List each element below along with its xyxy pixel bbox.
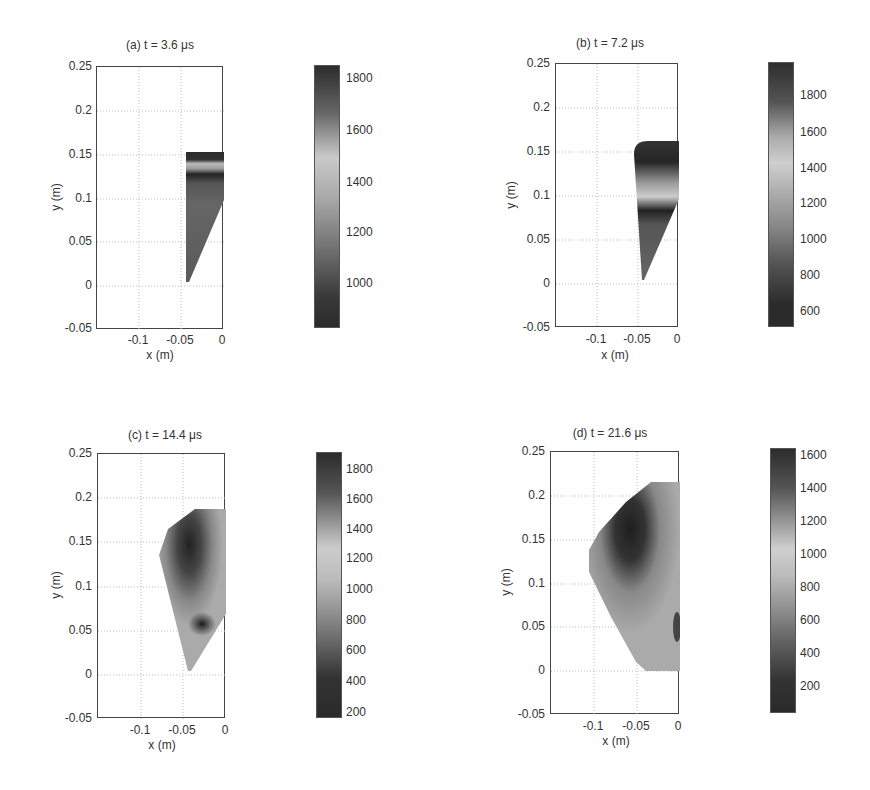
colorbar-tick: 1200 (346, 225, 373, 239)
colorbar-tick: 200 (800, 679, 820, 693)
ytick: 0 (52, 278, 92, 292)
colorbar-tick: 1000 (346, 582, 373, 596)
ytick: -0.05 (52, 711, 92, 725)
colorbar-tick: 1600 (346, 492, 373, 506)
ytick: 0 (52, 667, 92, 681)
ytick: -0.05 (52, 321, 92, 335)
panel-c-plot (98, 454, 226, 719)
ytick: 0.05 (510, 232, 550, 246)
colorbar-tick: 1200 (346, 551, 373, 565)
colorbar-tick: 1200 (800, 196, 827, 210)
colorbar-tick: 600 (800, 304, 820, 318)
panel-b-title: (b) t = 7.2 μs (576, 36, 644, 50)
ytick: 0.2 (505, 488, 545, 502)
x-axis-label: x (m) (148, 738, 175, 752)
colorbar-tick: 1800 (800, 88, 827, 102)
y-axis-label: y (m) (504, 181, 518, 208)
ytick: 0.25 (52, 59, 92, 73)
ytick: 0.25 (52, 446, 92, 460)
panel-d-title: (d) t = 21.6 μs (573, 426, 648, 440)
ytick: 0.2 (52, 103, 92, 117)
panel-b-axes (555, 63, 678, 327)
panel-b-plot (556, 64, 679, 328)
ytick: 0.15 (510, 144, 550, 158)
colorbar-tick: 1000 (800, 547, 827, 561)
y-axis-label: y (m) (49, 571, 63, 598)
xtick: -0.1 (583, 719, 604, 733)
colorbar-tick: 1400 (346, 175, 373, 189)
xtick: 0 (222, 723, 229, 737)
colorbar-tick: 1400 (800, 481, 827, 495)
colorbar-tick: 1200 (800, 514, 827, 528)
colorbar-tick: 400 (346, 674, 366, 688)
xtick: -0.1 (128, 333, 149, 347)
xtick: 0 (219, 333, 226, 347)
xtick: -0.05 (623, 332, 650, 346)
ytick: 0.05 (52, 234, 92, 248)
ytick: 0 (510, 276, 550, 290)
xtick: -0.05 (166, 333, 193, 347)
colorbar-tick: 1600 (800, 125, 827, 139)
x-axis-label: x (m) (146, 348, 173, 362)
ytick: 0.25 (510, 56, 550, 70)
y-axis-label: y (m) (49, 183, 63, 210)
x-axis-label: x (m) (601, 348, 628, 362)
ytick: 0.15 (505, 532, 545, 546)
colorbar-tick: 800 (800, 580, 820, 594)
xtick: 0 (674, 332, 681, 346)
colorbar-tick: 1000 (800, 232, 827, 246)
panel-a-title: (a) t = 3.6 μs (126, 38, 194, 52)
colorbar-tick: 1800 (346, 462, 373, 476)
xtick: -0.05 (168, 723, 195, 737)
xtick: 0 (675, 719, 682, 733)
colorbar-tick: 400 (800, 646, 820, 660)
colorbar-tick: 600 (346, 643, 366, 657)
colorbar-tick: 600 (800, 613, 820, 627)
ytick: 0.2 (52, 490, 92, 504)
ytick: 0.2 (510, 100, 550, 114)
panel-a-plot (97, 67, 224, 330)
colorbar-tick: 1600 (346, 123, 373, 137)
panel-c-title: (c) t = 14.4 μs (128, 428, 202, 442)
ytick: 0.05 (52, 623, 92, 637)
ytick: 0.25 (505, 444, 545, 458)
colorbar-b (768, 62, 794, 327)
colorbar-tick: 1400 (346, 522, 373, 536)
colorbar-tick: 1800 (346, 71, 373, 85)
panel-c-axes (97, 453, 225, 718)
colorbar-tick: 1400 (800, 161, 827, 175)
colorbar-d (770, 448, 796, 713)
panel-d-axes (550, 451, 679, 714)
xtick: -0.1 (130, 723, 151, 737)
colorbar-c (316, 452, 342, 718)
colorbar-a (314, 65, 340, 328)
ytick: 0.15 (52, 534, 92, 548)
ytick: 0.15 (52, 147, 92, 161)
y-axis-label: y (m) (499, 568, 513, 595)
colorbar-tick: 200 (346, 705, 366, 719)
ytick: 0.05 (505, 619, 545, 633)
x-axis-label: x (m) (602, 734, 629, 748)
panel-d-plot (551, 452, 680, 715)
colorbar-tick: 1000 (346, 276, 373, 290)
colorbar-tick: 800 (346, 613, 366, 627)
panel-a-axes (96, 66, 223, 329)
ytick: -0.05 (505, 707, 545, 721)
ytick: 0 (505, 663, 545, 677)
xtick: -0.1 (586, 332, 607, 346)
colorbar-tick: 800 (800, 268, 820, 282)
colorbar-tick: 1600 (800, 448, 827, 462)
ytick: -0.05 (510, 320, 550, 334)
xtick: -0.05 (622, 719, 649, 733)
